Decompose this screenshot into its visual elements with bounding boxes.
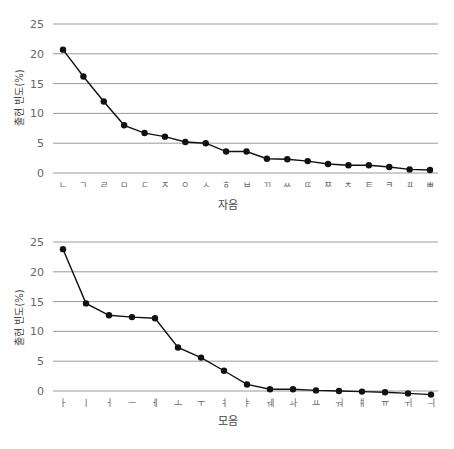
x-tick-label: ㅗ [174, 398, 182, 408]
x-tick-label: ㅓ [105, 398, 113, 408]
x-tick-label: ㅜ [197, 398, 205, 408]
series-line [63, 249, 431, 394]
x-tick-label: ㅣ [82, 398, 90, 408]
data-point-marker [336, 388, 342, 394]
x-tick-label: ㅏ [59, 398, 67, 408]
data-point-marker [221, 368, 227, 374]
x-tick-label: ㅟ [404, 398, 412, 408]
data-point-marker [83, 300, 89, 306]
x-tick-label: ㅡ [128, 398, 136, 408]
x-tick-label: ㅔ [151, 398, 159, 408]
y-tick-label: 5 [37, 355, 44, 368]
data-point-marker [106, 312, 112, 318]
x-tick-label: ㅛ [312, 398, 320, 408]
data-point-marker [359, 388, 365, 394]
x-tick-label: ㅠ [381, 398, 389, 408]
data-point-marker [290, 386, 296, 392]
data-point-marker [60, 246, 66, 252]
y-tick-label: 15 [30, 296, 44, 309]
x-tick-label: ㅘ [289, 398, 297, 408]
x-tick-label: ㅝ [335, 398, 343, 408]
data-point-marker [428, 391, 434, 397]
y-tick-label: 0 [37, 385, 44, 398]
data-point-marker [152, 315, 158, 321]
y-tick-label: 25 [30, 236, 44, 249]
data-point-marker [129, 314, 135, 320]
data-point-marker [175, 344, 181, 350]
y-tick-label: 20 [30, 266, 44, 279]
vowel-x-axis-title: 모음 [218, 412, 238, 428]
data-point-marker [405, 390, 411, 396]
x-tick-label: ㅒ [358, 398, 366, 408]
x-tick-label: ㅕ [220, 398, 228, 408]
x-tick-label: ㅑ [243, 398, 251, 408]
data-point-marker [267, 386, 273, 392]
data-point-marker [198, 354, 204, 360]
x-tick-label: ㅢ [427, 398, 435, 408]
data-point-marker [313, 387, 319, 393]
y-tick-label: 10 [30, 325, 44, 338]
x-tick-label: ㅞ [266, 398, 274, 408]
figure-caption-clipped [0, 440, 454, 449]
vowel-line-plot: 0510152025ㅏㅣㅓㅡㅔㅗㅜㅕㅑㅞㅘㅛㅝㅒㅠㅟㅢ [0, 0, 454, 430]
data-point-marker [382, 389, 388, 395]
data-point-marker [244, 381, 250, 387]
vowel-y-axis-label: 출현 빈도(%) [11, 278, 26, 358]
vowel-chart: 0510152025ㅏㅣㅓㅡㅔㅗㅜㅕㅑㅞㅘㅛㅝㅒㅠㅟㅢ 출현 빈도(%) 모음 [0, 0, 454, 430]
